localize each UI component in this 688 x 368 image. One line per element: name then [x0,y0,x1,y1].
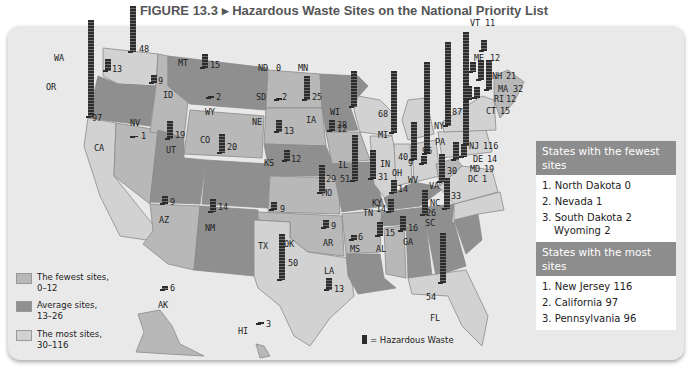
label-mi: MI [378,130,388,140]
value-al: 15 [385,228,395,238]
label-nv: NV [130,118,140,128]
state-nm [194,206,258,276]
bar-de [461,144,467,157]
bar-ca [88,20,94,117]
bar-in [370,150,376,179]
label-tx: TX [258,241,268,251]
label-ak: AK [158,300,168,310]
value-id: 9 [158,76,163,86]
label-ri: RI [494,94,504,104]
label-fl: FL [430,313,440,323]
bar-co [219,134,225,153]
fewest-sites-header: States with the fewest sites [536,141,676,175]
most-item: 2. California 97 [542,295,670,311]
value-ak: 6 [170,283,175,293]
value-vt: 11 [485,18,495,28]
label-ga: GA [403,237,413,247]
label-ok: OK [284,239,294,249]
factory-bar-icon [362,335,367,344]
bar-mi [391,71,397,133]
bar-nh [478,60,484,80]
label-vt: VT [470,18,480,28]
value-wv: 9 [408,158,413,168]
bar-ok [271,202,277,210]
bar-ks [284,150,290,161]
fewest-sites-list: 1. North Dakota 0 2. Nevada 1 3. South D… [536,175,676,242]
label-ut: UT [166,145,176,155]
value-ga: 16 [408,223,418,233]
value-ma: 32 [513,84,523,94]
bar-mt [202,54,208,68]
legend-average-label: Average sites, [37,300,97,311]
value-ne: 13 [284,126,294,136]
bar-me [481,40,487,51]
label-la: LA [324,266,334,276]
figure-title: FIGURE 13.3 ▸ Hazardous Waste Sites on t… [0,0,688,22]
bar-wv [421,156,427,164]
label-az: AZ [159,215,169,225]
bar-ny [445,42,451,126]
legend-most-label: The most sites, [37,329,102,340]
fewest-item: 2. Nevada 1 [542,194,670,210]
bar-ar [323,220,329,228]
value-oh: 40 [398,152,408,162]
label-mt: MT [178,58,188,68]
label-nm: NM [205,223,215,233]
label-nh: NH [492,71,502,81]
bar-ga [400,216,406,231]
value-md: 19 [484,164,494,174]
most-sites-header: States with the most sites [536,242,676,276]
label-sd: SD [256,92,266,102]
bar-or [105,59,111,71]
value-ky: 14 [398,184,408,194]
value-or: 13 [112,64,122,74]
value-pa: 96 [422,146,432,156]
value-wi: 38 [337,120,347,130]
bar-nc [444,178,450,209]
bar-id [151,75,157,83]
value-il: 51 [340,174,350,184]
label-hi: HI [238,326,248,336]
most-item: 1. New Jersey 116 [542,279,670,295]
hazardous-waste-key: = Hazardous Waste [362,335,454,345]
value-co: 20 [227,142,237,152]
label-nd: ND [258,63,268,73]
swatch-average [16,301,32,312]
label-de: DE [473,154,483,164]
bar-wa [130,6,136,52]
value-nv: 1 [141,131,146,141]
label-ne: NE [252,117,262,127]
value-tx: 50 [288,258,298,268]
label-nc: NC [430,198,440,208]
value-ar: 9 [331,221,336,231]
state-ak [136,310,204,356]
bar-vt [470,62,476,72]
label-md: MD [470,164,480,174]
label-wi: WI [330,107,340,117]
bar-wy [208,96,214,98]
label-ma: MA [498,84,508,94]
value-la: 13 [334,284,344,294]
bar-ky [391,180,397,193]
label-il: IL [338,160,348,170]
label-in: IN [380,159,390,169]
value-sc: 26 [426,208,436,218]
value-nh: 21 [506,71,516,81]
bar-ms [351,235,357,240]
bar-mn [304,76,310,100]
value-ut: 19 [175,130,185,140]
value-nj: 116 [483,141,498,151]
bar-mo [319,165,325,193]
value-in: 31 [378,172,388,182]
value-sd: 2 [282,92,287,102]
label-pa: PA [435,137,445,147]
legend-fewest-range: 0–12 [37,283,109,294]
state-sd [264,108,326,146]
value-wa: 48 [139,44,149,54]
value-tn: 14 [376,204,386,214]
label-co: CO [200,135,210,145]
bar-al [377,222,383,236]
value-mt: 15 [210,60,220,70]
state-nd [266,70,322,108]
label-oh: OH [392,168,402,178]
